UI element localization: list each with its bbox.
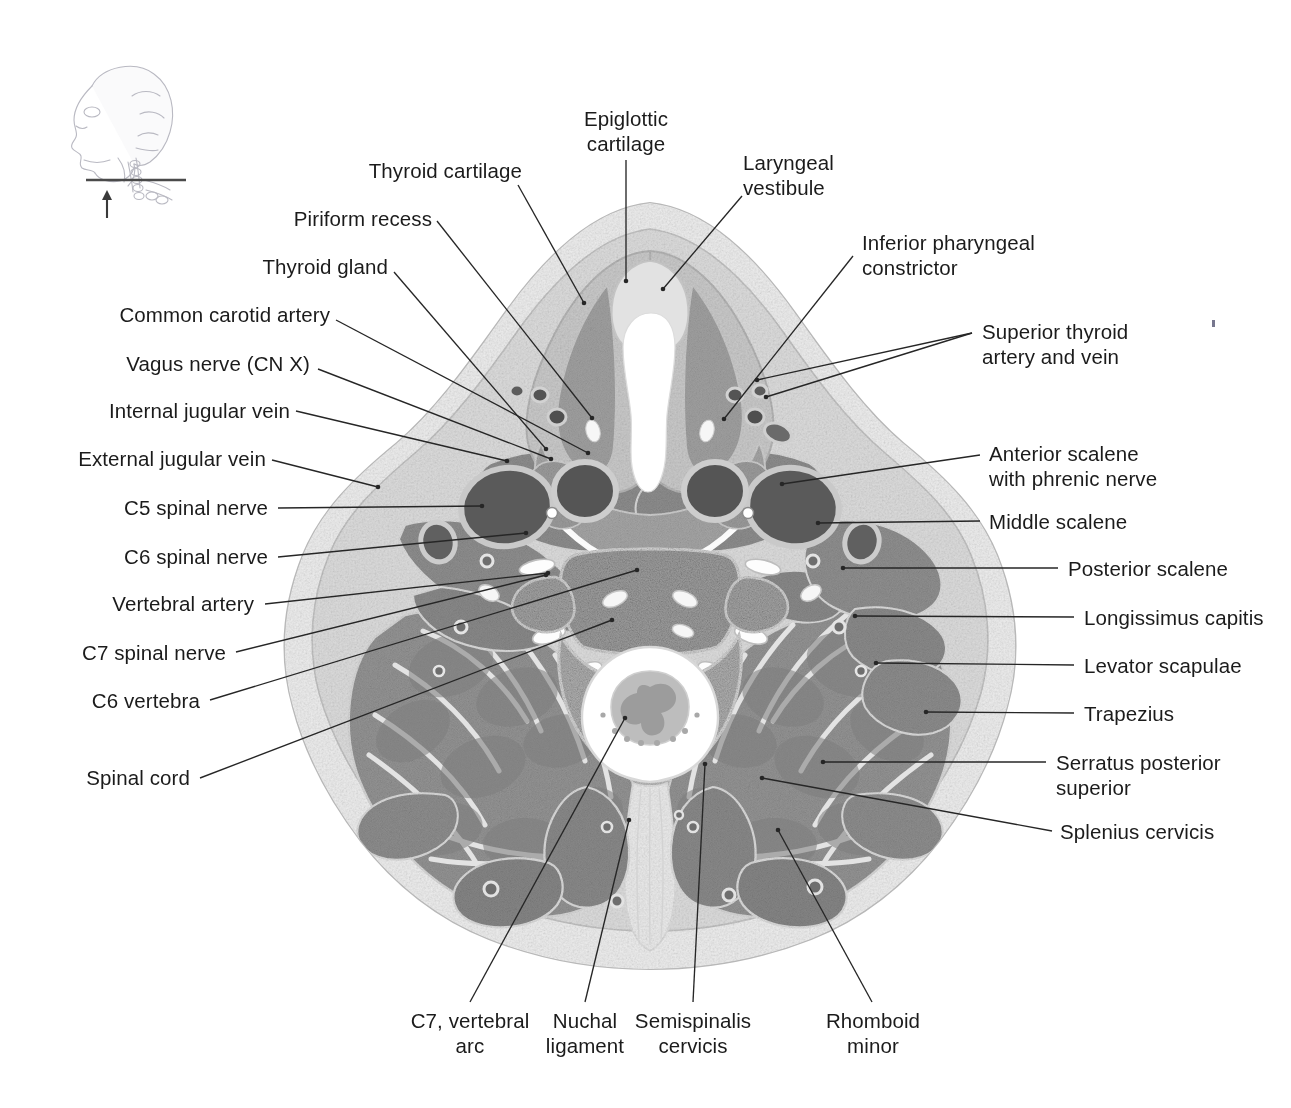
label-thyroid-gland: Thyroid gland <box>128 254 388 279</box>
label-serratus-posterior-superior: Serratus posterior superior <box>1056 750 1276 800</box>
vagus-nerve-left <box>547 508 558 519</box>
viewing-direction-arrow <box>102 190 112 218</box>
label-piriform-recess: Piriform recess <box>160 206 432 231</box>
label-semispinalis-cervicis: Semispinalis cervicis <box>618 1008 768 1058</box>
label-trapezius: Trapezius <box>1084 701 1244 726</box>
label-c6-spinal-nerve: C6 spinal nerve <box>100 544 268 569</box>
label-anterior-scalene-with-phrenic-nerve: Anterior scalene with phrenic nerve <box>989 441 1219 491</box>
print-artifact-mark <box>1212 320 1215 327</box>
label-c5-spinal-nerve: C5 spinal nerve <box>100 495 268 520</box>
label-external-jugular-vein: External jugular vein <box>70 446 266 471</box>
label-rhomboid-minor: Rhomboid minor <box>800 1008 946 1058</box>
neck-cross-section-image <box>255 195 1045 995</box>
label-epiglottic-cartilage: Epiglottic cartilage <box>536 106 716 156</box>
common-carotid-artery-right <box>684 462 746 520</box>
label-posterior-scalene: Posterior scalene <box>1068 556 1268 581</box>
label-levator-scapulae: Levator scapulae <box>1084 653 1284 678</box>
label-superior-thyroid-artery-and-vein: Superior thyroid artery and vein <box>982 319 1212 369</box>
label-common-carotid-artery: Common carotid artery <box>68 302 330 327</box>
head-lateral-icon <box>71 66 172 204</box>
superior-thyroid-artery <box>746 409 764 425</box>
label-spinal-cord: Spinal cord <box>60 765 190 790</box>
common-carotid-artery-left <box>554 462 616 520</box>
figure-canvas: Epiglottic cartilage Thyroid cartilage L… <box>0 0 1291 1108</box>
label-inferior-pharyngeal-constrictor: Inferior pharyngeal constrictor <box>862 230 1102 280</box>
label-c6-vertebra: C6 vertebra <box>60 688 200 713</box>
label-longissimus-capitis: Longissimus capitis <box>1084 605 1291 630</box>
label-internal-jugular-vein: Internal jugular vein <box>76 398 290 423</box>
label-splenius-cervicis: Splenius cervicis <box>1060 819 1270 844</box>
label-c7-spinal-nerve: C7 spinal nerve <box>60 640 226 665</box>
label-vertebral-artery: Vertebral artery <box>88 591 254 616</box>
label-vagus-nerve: Vagus nerve (CN X) <box>80 351 310 376</box>
orientation-thumbnail <box>40 40 220 220</box>
label-laryngeal-vestibule: Laryngeal vestibule <box>743 150 943 200</box>
label-thyroid-cartilage: Thyroid cartilage <box>236 158 522 183</box>
label-middle-scalene: Middle scalene <box>989 509 1189 534</box>
